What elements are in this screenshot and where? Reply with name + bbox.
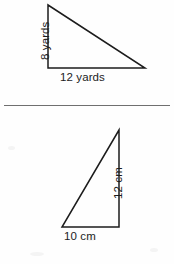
right-triangle-outline-yards xyxy=(48,5,145,68)
figure-sheet: 8 yards 12 yards 12 cm 10 cm xyxy=(0,0,174,264)
right-triangle-outline-cm xyxy=(62,130,119,227)
figure-top-panel: 8 yards 12 yards xyxy=(0,0,174,106)
label-top-triangle-base: 12 yards xyxy=(60,72,105,84)
triangle-yards-shape xyxy=(0,0,174,106)
label-bottom-triangle-height: 12 cm xyxy=(113,167,125,199)
figure-divider-rule xyxy=(4,105,170,106)
label-bottom-triangle-base: 10 cm xyxy=(64,231,96,243)
label-top-triangle-height: 8 yards xyxy=(40,22,52,60)
